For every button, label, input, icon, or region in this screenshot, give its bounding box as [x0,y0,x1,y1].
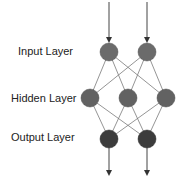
hidden-nodes [81,89,175,107]
output-nodes [100,130,156,148]
input-node-2 [138,43,156,61]
input-node-1 [100,43,118,61]
input-arrows [109,2,147,40]
input-nodes [100,43,156,61]
output-node-2 [138,130,156,148]
output-arrows [109,148,147,173]
hidden-node-3 [157,89,175,107]
hidden-node-1 [81,89,99,107]
hidden-node-2 [119,89,137,107]
output-node-1 [100,130,118,148]
network-diagram [0,0,185,184]
